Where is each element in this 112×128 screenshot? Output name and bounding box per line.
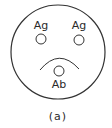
binding-arc xyxy=(40,58,79,70)
antibody-label: Ab xyxy=(52,78,67,91)
antigen-label-right: Ag xyxy=(72,19,87,32)
panel-label: (a) xyxy=(49,110,67,123)
antigen-antibody-diagram: Ag Ag Ab (a) xyxy=(0,0,112,128)
antigen-circle-left xyxy=(36,34,46,44)
antibody-circle xyxy=(54,66,64,76)
antigen-circle-right xyxy=(74,35,84,45)
antigen-label-left: Ag xyxy=(34,19,49,32)
